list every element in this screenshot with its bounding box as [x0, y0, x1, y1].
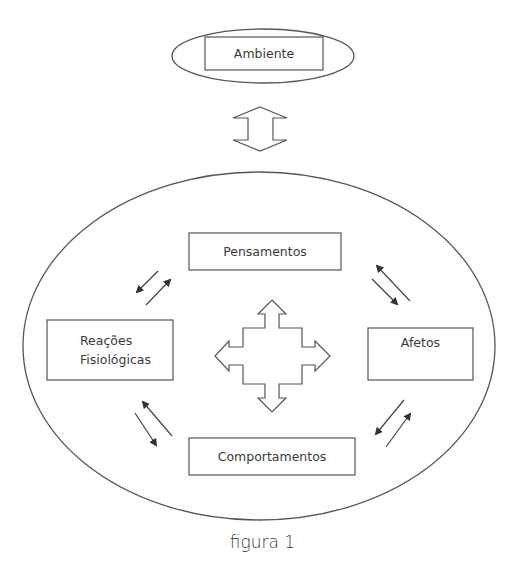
arrow-pair-lower-left — [135, 402, 172, 445]
afetos-label-text: Afetos — [401, 333, 440, 352]
pensamentos-label-text: Pensamentos — [223, 242, 307, 261]
double-vertical-arrow-icon — [233, 107, 287, 151]
comportamentos-label-text: Comportamentos — [218, 447, 327, 466]
figure-caption: figura 1 — [0, 532, 515, 552]
environment-label-text: Ambiente — [234, 44, 294, 63]
pensamentos-label: Pensamentos — [189, 233, 341, 270]
environment-label: Ambiente — [205, 37, 323, 70]
arrow-pair-lower-right — [376, 400, 410, 447]
reacoes-label-line1: Reações — [80, 331, 132, 350]
four-way-arrow-outline — [215, 300, 330, 412]
reacoes-label-line2: Fisiológicas — [80, 350, 151, 369]
afetos-label: Afetos — [368, 328, 473, 358]
comportamentos-label: Comportamentos — [189, 438, 355, 475]
reacoes-label: Reações Fisiológicas — [80, 320, 173, 380]
arrow-pair-upper-right — [372, 266, 410, 304]
arrow-pair-upper-left — [137, 271, 170, 305]
diagram-canvas — [0, 0, 515, 572]
